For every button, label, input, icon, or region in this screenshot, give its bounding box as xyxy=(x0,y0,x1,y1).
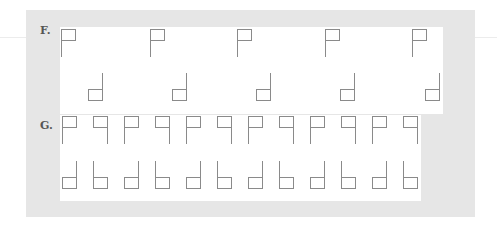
glyph-p-shape xyxy=(372,116,388,144)
glyph-q-shape xyxy=(217,116,233,144)
glyph-p-shape xyxy=(412,29,428,57)
shape-box xyxy=(237,29,252,41)
section-f-label: F. xyxy=(40,24,51,37)
shape-stem xyxy=(439,73,440,89)
shape-stem xyxy=(237,41,238,57)
glyph-d-shape xyxy=(256,73,272,101)
shape-stem xyxy=(372,128,373,144)
shape-stem xyxy=(231,128,232,144)
glyph-b-shape xyxy=(341,161,357,189)
glyph-d-shape xyxy=(62,161,78,189)
shape-stem xyxy=(248,128,249,144)
shape-stem xyxy=(61,41,62,57)
shape-stem xyxy=(138,161,139,177)
shape-box xyxy=(403,177,418,189)
shape-box xyxy=(155,177,170,189)
shape-stem xyxy=(324,161,325,177)
glyph-d-shape xyxy=(248,161,264,189)
shape-box xyxy=(341,116,356,128)
shape-stem xyxy=(293,128,294,144)
shape-stem xyxy=(150,41,151,57)
shape-box xyxy=(310,177,325,189)
glyph-p-shape xyxy=(61,29,77,57)
shape-stem xyxy=(354,73,355,89)
glyph-d-shape xyxy=(172,73,188,101)
shape-box xyxy=(279,116,294,128)
shape-stem xyxy=(102,73,103,89)
shape-stem xyxy=(93,161,94,177)
shape-box xyxy=(61,29,76,41)
shape-stem xyxy=(310,128,311,144)
shape-box xyxy=(279,177,294,189)
shape-box xyxy=(425,89,440,101)
shape-stem xyxy=(217,161,218,177)
shape-box xyxy=(62,177,77,189)
shape-stem xyxy=(403,161,404,177)
glyph-p-shape xyxy=(248,116,264,144)
glyph-d-shape xyxy=(88,73,104,101)
glyph-b-shape xyxy=(155,161,171,189)
exercise-panel: F. G. xyxy=(26,10,475,217)
shape-box xyxy=(217,116,232,128)
shape-box xyxy=(372,116,387,128)
glyph-p-shape xyxy=(150,29,166,57)
shape-stem xyxy=(417,128,418,144)
glyph-d-shape xyxy=(340,73,356,101)
glyph-q-shape xyxy=(155,116,171,144)
shape-box xyxy=(325,29,340,41)
glyph-p-shape xyxy=(237,29,253,57)
glyph-p-shape xyxy=(124,116,140,144)
glyph-p-shape xyxy=(186,116,202,144)
shape-stem xyxy=(124,128,125,144)
shape-box xyxy=(403,116,418,128)
section-g-area xyxy=(60,115,421,201)
shape-stem xyxy=(341,161,342,177)
shape-stem xyxy=(386,161,387,177)
shape-box xyxy=(88,89,103,101)
shape-box xyxy=(248,177,263,189)
glyph-q-shape xyxy=(403,116,419,144)
shape-stem xyxy=(155,161,156,177)
shape-box xyxy=(155,116,170,128)
glyph-p-shape xyxy=(310,116,326,144)
shape-stem xyxy=(169,128,170,144)
shape-box xyxy=(93,116,108,128)
glyph-q-shape xyxy=(279,116,295,144)
glyph-q-shape xyxy=(341,116,357,144)
shape-box xyxy=(186,177,201,189)
shape-box xyxy=(93,177,108,189)
glyph-d-shape xyxy=(310,161,326,189)
shape-box xyxy=(256,89,271,101)
shape-box xyxy=(186,116,201,128)
shape-box xyxy=(124,177,139,189)
shape-stem xyxy=(279,161,280,177)
shape-box xyxy=(340,89,355,101)
section-f-area xyxy=(60,27,443,114)
shape-box xyxy=(341,177,356,189)
shape-box xyxy=(412,29,427,41)
shape-box xyxy=(62,116,77,128)
glyph-d-shape xyxy=(186,161,202,189)
shape-box xyxy=(248,116,263,128)
shape-stem xyxy=(200,161,201,177)
shape-box xyxy=(372,177,387,189)
glyph-b-shape xyxy=(403,161,419,189)
glyph-b-shape xyxy=(93,161,109,189)
shape-stem xyxy=(186,73,187,89)
section-g-label: G. xyxy=(40,119,53,132)
shape-stem xyxy=(325,41,326,57)
glyph-d-shape xyxy=(372,161,388,189)
glyph-b-shape xyxy=(217,161,233,189)
glyph-d-shape xyxy=(425,73,441,101)
shape-stem xyxy=(62,128,63,144)
shape-box xyxy=(310,116,325,128)
shape-box xyxy=(217,177,232,189)
shape-stem xyxy=(270,73,271,89)
shape-stem xyxy=(412,41,413,57)
shape-stem xyxy=(107,128,108,144)
shape-stem xyxy=(76,161,77,177)
glyph-p-shape xyxy=(325,29,341,57)
shape-box xyxy=(172,89,187,101)
shape-stem xyxy=(186,128,187,144)
glyph-b-shape xyxy=(279,161,295,189)
